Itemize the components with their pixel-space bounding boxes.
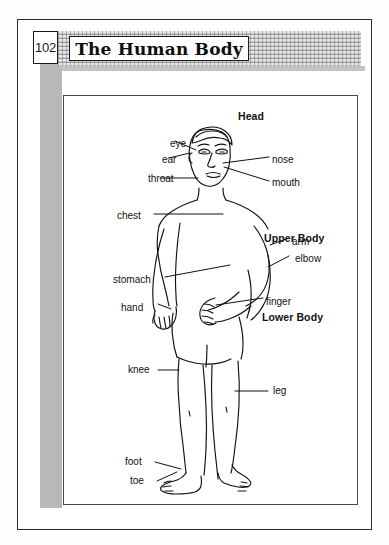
sidebar-gray-bar [40,41,62,508]
label-eye: eye [170,138,186,149]
page-title: The Human Body [75,39,243,59]
label-ear: ear [162,154,176,165]
textbook-page: 102 The Human Body [0,0,389,545]
page-number: 102 [35,40,56,55]
label-arm: arm [292,236,309,247]
label-knee: knee [128,364,150,375]
label-chest: chest [117,210,141,221]
label-hand: hand [121,302,143,313]
label-mouth: mouth [272,177,300,188]
page-title-plate: The Human Body [69,36,249,61]
section-header-head: Head [238,110,264,122]
label-nose: nose [272,154,294,165]
label-elbow: elbow [295,253,321,264]
label-stomach: stomach [113,274,151,285]
label-throat: throat [148,173,174,184]
title-band-shadow [62,66,365,71]
page-number-box: 102 [33,31,58,64]
label-leg: leg [273,385,286,396]
human-body-figure [63,95,358,505]
label-finger: finger [266,296,291,307]
section-header-lower-body: Lower Body [262,311,323,323]
label-foot: foot [125,456,142,467]
label-toe: toe [130,475,144,486]
